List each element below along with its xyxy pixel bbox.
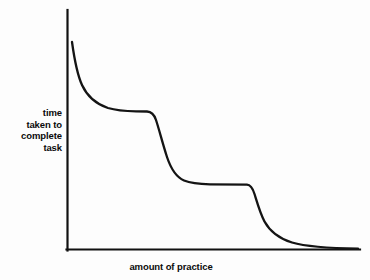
y-axis-label: time taken to complete task: [6, 107, 62, 153]
y-axis-label-line-3: complete: [6, 130, 62, 142]
learning-curve-path: [72, 42, 358, 249]
x-axis-label-text: amount of practice: [129, 261, 212, 272]
x-axis-label: amount of practice: [0, 261, 370, 272]
y-axis-label-line-2: taken to: [6, 119, 62, 131]
y-axis-label-line-4: task: [6, 142, 62, 154]
learning-curve-figure: time taken to complete task amount of pr…: [0, 0, 370, 280]
y-axis-label-line-1: time: [6, 107, 62, 119]
